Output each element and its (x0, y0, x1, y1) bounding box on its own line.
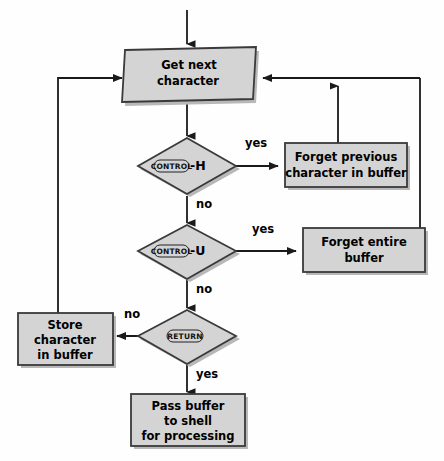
return-keycap: RETURN (167, 330, 203, 342)
node-control-u-decision[interactable]: CONTROL -U (138, 225, 240, 282)
control-h-key-text: CONTROL (151, 162, 193, 171)
store-character-line2: character (34, 333, 96, 347)
get-next-character-line1: Get next (161, 58, 217, 72)
control-h-suffix: -H (190, 158, 206, 173)
forget-entire-line1: Forget entire (321, 235, 407, 249)
store-character-line1: Store (47, 318, 82, 332)
forget-entire-line2: buffer (344, 251, 384, 265)
edge-label-u-no: no (196, 282, 212, 296)
forget-previous-line2: character in buffer (285, 166, 407, 180)
node-return-decision[interactable]: RETURN (138, 310, 240, 367)
control-u-suffix: -U (190, 243, 205, 258)
pass-buffer-line3: for processing (141, 429, 234, 443)
control-u-keycap: CONTROL (151, 245, 193, 257)
return-key-text: RETURN (167, 332, 202, 341)
control-h-keycap: CONTROL (151, 160, 193, 172)
control-u-key-text: CONTROL (151, 247, 193, 256)
forget-previous-line1: Forget previous (295, 150, 398, 164)
store-character-line3: in buffer (37, 348, 93, 362)
pass-buffer-line2: to shell (164, 414, 212, 428)
edge-store-loop (58, 78, 122, 313)
flowchart-canvas: Get next character CONTROL -H Forget pre… (0, 0, 444, 461)
edge-label-return-no: no (124, 307, 140, 321)
get-next-character-line2: character (157, 74, 219, 88)
flowchart-page: Get next character CONTROL -H Forget pre… (0, 0, 444, 461)
pass-buffer-line1: Pass buffer (152, 399, 225, 413)
node-pass-buffer[interactable]: Pass buffer to shell for processing (131, 394, 248, 449)
node-forget-previous[interactable]: Forget previous character in buffer (285, 143, 410, 190)
edge-label-h-yes: yes (245, 136, 267, 150)
edge-label-return-yes: yes (196, 367, 218, 381)
node-control-h-decision[interactable]: CONTROL -H (138, 138, 240, 197)
node-store-character[interactable]: Store character in buffer (18, 313, 116, 368)
node-get-next-character[interactable]: Get next character (122, 47, 259, 106)
node-forget-entire[interactable]: Forget entire buffer (303, 228, 428, 275)
edge-label-h-no: no (196, 197, 212, 211)
edge-label-u-yes: yes (252, 222, 274, 236)
